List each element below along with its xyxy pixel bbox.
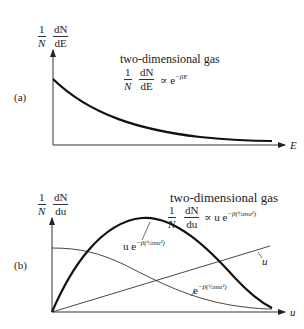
label-gaussian-curve: e−β(½mu²) [193,284,227,296]
diagram-canvas [0,0,304,329]
panel-a-label: (a) [14,92,26,103]
ylabel-b-fraction-1: 1 N [38,192,46,217]
ylabel-a-fraction-1: 1 N [38,24,46,49]
formula-a-frac2: dN dE [139,67,154,92]
leader-product [142,222,150,240]
curve-exponential-decay [53,79,272,141]
label-linear-curve: u [262,256,268,267]
formula-b-prop: ∝ u e−β(½mu²) [204,211,256,223]
panel-a-title: two-dimensional gas [120,53,220,65]
xlabel-a: E [290,140,297,151]
panel-b-title: two-dimensional gas [170,191,278,204]
label-product-curve: u e−β(½mu²) [123,240,165,252]
panel-b-axes [52,218,285,312]
panel-b-label: (b) [14,260,27,271]
formula-a-prop: ∝ e−βE [160,74,188,86]
formula-a-frac1: 1 N [124,67,132,92]
xlabel-b: u [290,307,296,318]
curve-product [52,218,272,312]
formula-b-frac2: dN du [184,205,199,230]
formula-b-frac1: 1 N [168,205,176,230]
ylabel-b-fraction-2: dN du [53,192,68,217]
ylabel-a-fraction-2: dN dE [53,24,68,49]
